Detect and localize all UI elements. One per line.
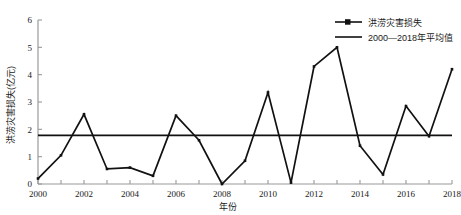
data-point-marker (83, 113, 86, 116)
x-tick-label: 2004 (121, 189, 140, 199)
data-point-marker (37, 177, 40, 180)
x-tick-label: 2012 (305, 189, 323, 199)
data-point-marker (175, 114, 178, 117)
legend-label-average: 2000—2018年平均值 (368, 32, 453, 43)
y-tick-label: 0 (28, 179, 33, 189)
data-point-marker (198, 139, 201, 142)
data-point-marker (382, 173, 385, 176)
data-point-marker (359, 144, 362, 147)
x-axis-title: 年份 (219, 201, 237, 212)
x-tick-label: 2010 (259, 189, 278, 199)
legend-marker-flood-loss (345, 19, 351, 25)
data-series-flood-loss (37, 46, 454, 185)
chart-legend: 洪涝灾害损失 2000—2018年平均值 (335, 17, 453, 43)
data-point-marker (267, 91, 270, 94)
x-tick-label: 2018 (443, 189, 461, 199)
x-tick-label: 2000 (29, 189, 48, 199)
x-tick-label: 2006 (167, 189, 186, 199)
data-point-marker (129, 166, 132, 169)
data-point-marker (152, 175, 155, 178)
data-point-marker (244, 159, 247, 162)
data-point-marker (106, 168, 109, 171)
data-point-marker (451, 68, 454, 71)
x-tick-label: 2014 (351, 189, 370, 199)
x-tick-label: 2002 (75, 189, 93, 199)
y-tick-label: 5 (28, 43, 33, 53)
legend-label-flood-loss: 洪涝灾害损失 (368, 17, 422, 28)
y-tick-label: 6 (28, 15, 33, 25)
data-point-marker (313, 65, 316, 68)
x-tick-label: 2008 (213, 189, 232, 199)
data-point-marker (405, 105, 408, 108)
data-point-marker (428, 135, 431, 138)
flood-loss-line-chart: 0123456 20002002200420062008201020122014… (0, 0, 461, 215)
x-tick-labels: 2000200220042006200820102012201420162018 (29, 189, 461, 199)
y-tick-label: 3 (28, 97, 33, 107)
chart-canvas: 0123456 20002002200420062008201020122014… (0, 0, 461, 215)
data-point-marker (60, 154, 63, 157)
data-point-marker (221, 183, 224, 186)
y-axis-title: 洪涝灾害损失(亿元) (5, 66, 16, 144)
y-tick-label: 2 (28, 125, 33, 135)
y-tick-label: 4 (28, 70, 33, 80)
y-tick-label: 1 (28, 152, 33, 162)
data-point-marker (290, 181, 293, 184)
data-point-marker (336, 46, 339, 49)
y-tick-labels: 0123456 (28, 15, 33, 189)
x-tick-label: 2016 (397, 189, 416, 199)
